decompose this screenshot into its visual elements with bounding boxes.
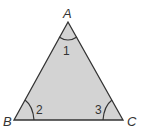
angle-label-1: 1 [63,44,70,58]
triangle-diagram: A B C 1 2 3 [0,0,142,132]
vertex-label-c: C [127,114,137,129]
vertex-label-b: B [3,114,12,129]
vertex-label-a: A [62,6,72,21]
angle-label-2: 2 [36,103,43,117]
angle-label-3: 3 [95,103,102,117]
